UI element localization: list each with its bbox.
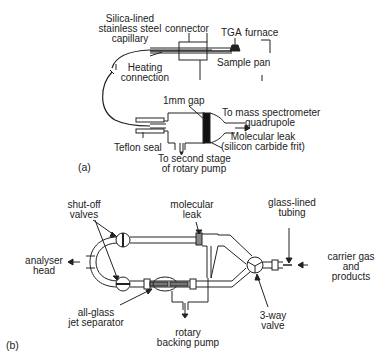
label-heating: Heating connection (120, 63, 170, 83)
text: leak (168, 210, 216, 220)
label-analyser: analyser head (22, 256, 66, 276)
label-molecular-leak: molecular leak (168, 200, 216, 220)
text: products (322, 272, 380, 282)
text: quadrupole (222, 118, 318, 128)
label-pump: To second stage of rotary pump (158, 154, 230, 174)
text: head (22, 266, 66, 276)
label-mass-spec: To mass spectrometer quadrupole (222, 108, 318, 128)
label-leak: Molecular leak (silicon carbide frit) (218, 132, 308, 152)
label-capillary: Silica-lined stainless steel capillary (98, 14, 162, 44)
label-glass-tubing: glass-lined tubing (268, 198, 316, 218)
text: valve (256, 321, 290, 331)
panel-tag-b: (b) (6, 340, 19, 350)
text: jet separator (66, 318, 126, 328)
text: backing pump (156, 338, 220, 348)
label-tga: TGA (221, 28, 242, 38)
label-sample-pan: Sample pan (217, 58, 270, 68)
label-teflon: Teflon seal (114, 143, 162, 153)
text: of rotary pump (158, 164, 230, 174)
text: tubing (268, 208, 316, 218)
panel-tag-a: (a) (78, 162, 91, 172)
label-backing-pump: rotary backing pump (156, 328, 220, 348)
diagram-lines (0, 0, 388, 358)
label-gap: 1mm gap (163, 96, 205, 106)
label-three-way-valve: 3-way valve (256, 311, 290, 331)
text: connection (120, 73, 170, 83)
label-connector: connector (165, 24, 209, 34)
label-shutoff: shut-off valves (62, 200, 106, 220)
text: (silicon carbide frit) (218, 142, 308, 152)
text: valves (62, 210, 106, 220)
label-furnace: furnace (245, 28, 278, 38)
label-jet-separator: all-glass jet separator (66, 308, 126, 328)
label-carrier: carrier gas and products (322, 252, 380, 282)
text: capillary (98, 34, 162, 44)
